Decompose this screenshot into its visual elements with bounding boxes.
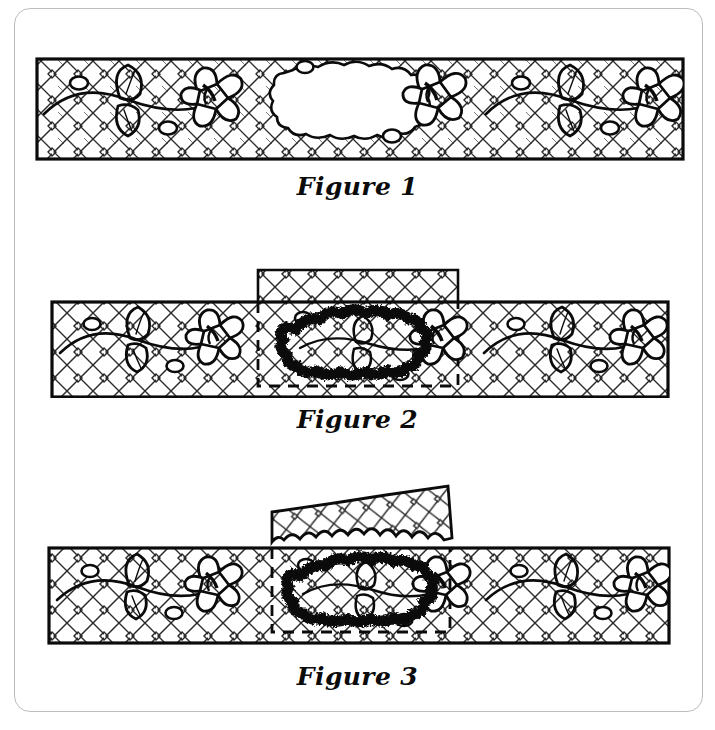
figure-3-caption: Figure 3 xyxy=(0,662,715,691)
figure-2-caption: Figure 2 xyxy=(0,405,715,434)
figure-3: Figure 3 xyxy=(0,480,715,695)
figure-2: Figure 2 xyxy=(0,248,715,438)
figure-1: Figure 1 xyxy=(0,22,715,207)
figure-3-illustration xyxy=(0,480,715,652)
figure-2-illustration xyxy=(0,248,715,398)
figure-1-caption: Figure 1 xyxy=(0,172,715,201)
figure-1-illustration xyxy=(0,22,715,162)
